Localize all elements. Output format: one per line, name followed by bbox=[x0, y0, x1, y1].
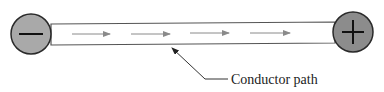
conductor-callout: Conductor path bbox=[172, 48, 318, 87]
diagram-svg: Conductor path bbox=[0, 0, 384, 92]
negative-terminal bbox=[11, 14, 51, 54]
positive-terminal bbox=[333, 12, 373, 52]
conductor-path-label: Conductor path bbox=[231, 72, 318, 87]
leader-line bbox=[172, 48, 228, 79]
conductor-diagram: Conductor path bbox=[0, 0, 384, 92]
